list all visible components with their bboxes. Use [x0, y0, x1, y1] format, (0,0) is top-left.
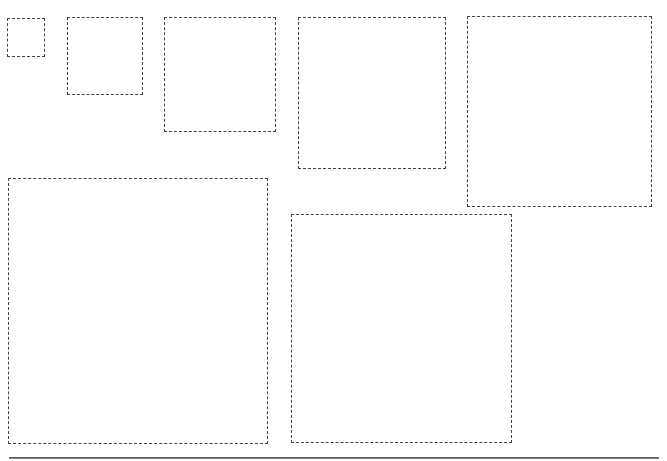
placeholder-box	[298, 17, 446, 169]
baseline-rule	[9, 457, 659, 459]
placeholder-box	[467, 16, 652, 207]
placeholder-box	[8, 178, 268, 444]
placeholder-box	[291, 214, 512, 443]
placeholder-box	[67, 17, 143, 95]
placeholder-box	[164, 17, 276, 132]
placeholder-box	[7, 18, 45, 57]
